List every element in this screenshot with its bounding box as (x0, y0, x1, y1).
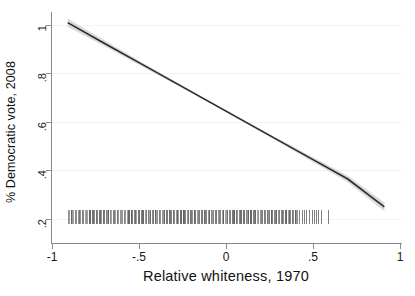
rug-tick (328, 210, 329, 224)
rug-tick (312, 210, 313, 224)
chart-figure: 1 .8 .6 .4 .2 -1 -.5 0 .5 1 % Democratic… (0, 0, 415, 296)
x-axis-title: Relative whiteness, 1970 (52, 268, 400, 284)
rug-tick (321, 210, 322, 224)
rug-tick (304, 210, 305, 224)
rug-plot (0, 0, 415, 296)
rug-tick (309, 210, 310, 224)
rug-tick (299, 210, 300, 224)
rug-tick (302, 210, 303, 224)
rug-tick (318, 210, 319, 224)
rug-tick (316, 210, 317, 224)
rug-tick (306, 210, 307, 224)
y-axis-title: % Democratic vote, 2008 (2, 16, 20, 248)
